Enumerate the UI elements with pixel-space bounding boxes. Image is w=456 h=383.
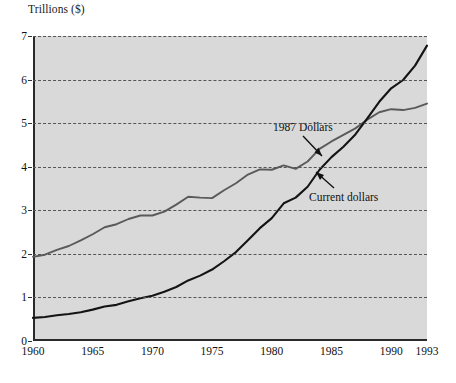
y-tick-mark-7 [28, 36, 32, 37]
y-tick-label-7: 7 [3, 30, 27, 42]
gridline-7 [33, 36, 427, 37]
gridline-4 [33, 167, 427, 168]
plot-area [33, 36, 427, 341]
y-tick-label-2: 2 [3, 248, 27, 260]
x-tick-label-1960: 1960 [22, 345, 45, 357]
x-tick-label-1965: 1965 [81, 345, 104, 357]
gridline-2 [33, 254, 427, 255]
gridline-1 [33, 297, 427, 298]
gridline-3 [33, 210, 427, 211]
x-tick-label-1990: 1990 [380, 345, 403, 357]
y-tick-mark-6 [28, 80, 32, 81]
annotation-label-current-dollars: Current dollars [309, 191, 378, 203]
x-tick-label-1975: 1975 [201, 345, 224, 357]
y-tick-label-6: 6 [3, 74, 27, 86]
x-tick-label-1985: 1985 [320, 345, 343, 357]
y-tick-mark-2 [28, 254, 32, 255]
x-tick-label-1993: 1993 [416, 345, 439, 357]
y-tick-mark-4 [28, 167, 32, 168]
x-tick-label-1970: 1970 [141, 345, 164, 357]
y-tick-mark-5 [28, 123, 32, 124]
gridline-6 [33, 80, 427, 81]
y-tick-label-4: 4 [3, 161, 27, 173]
y-tick-label-1: 1 [3, 291, 27, 303]
gdp-line-chart: Trillions ($) 1987 Dollars Current dolla… [0, 0, 456, 383]
gridline-5 [33, 123, 427, 124]
y-tick-label-5: 5 [3, 117, 27, 129]
y-tick-label-3: 3 [3, 204, 27, 216]
y-tick-mark-1 [28, 297, 32, 298]
y-tick-mark-0 [28, 341, 32, 342]
y-tick-mark-3 [28, 210, 32, 211]
y-axis-title: Trillions ($) [28, 3, 85, 15]
x-tick-label-1980: 1980 [260, 345, 283, 357]
